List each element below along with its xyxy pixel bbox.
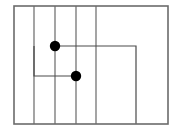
diagram-background [0, 0, 182, 131]
schematic-diagram [0, 0, 182, 131]
node-upper-dot[interactable] [50, 41, 60, 51]
node-lower-dot[interactable] [71, 71, 81, 81]
diagram-canvas [0, 0, 182, 131]
